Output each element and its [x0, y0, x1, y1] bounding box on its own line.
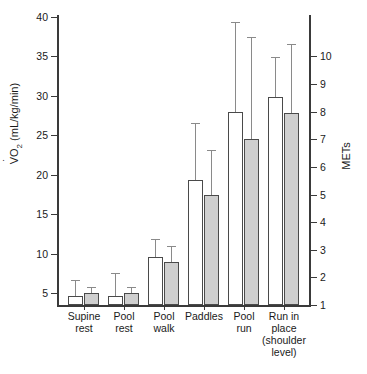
bar-open-bar	[188, 180, 203, 305]
error-bar	[235, 23, 236, 111]
error-bar	[75, 281, 76, 296]
error-bar	[171, 247, 172, 262]
bar-group	[268, 17, 300, 305]
y-axis-left-title-units: (mL/kg/min)	[8, 83, 20, 144]
y-tick-label-right: 2	[320, 272, 326, 283]
error-bar	[211, 151, 212, 195]
bar-shaded-bar	[204, 195, 219, 305]
y-tick-label-right: 8	[320, 107, 326, 118]
bar-shaded-bar	[84, 293, 99, 305]
y-tick-label-left: 15	[36, 209, 48, 220]
y-tick-right	[311, 84, 317, 85]
error-bar-cap	[207, 150, 216, 151]
y-tick-right	[311, 112, 317, 113]
error-bar	[195, 124, 196, 180]
y-axis-right-ticks: 12345678910	[311, 0, 367, 374]
x-axis-line	[57, 305, 311, 307]
y-tick-label-right: 3	[320, 245, 326, 256]
y-tick-label-right: 4	[320, 217, 326, 228]
bar-open-bar	[108, 296, 123, 305]
error-bar-cap	[271, 57, 280, 58]
y-tick-label-right: 1	[320, 300, 326, 311]
error-bar	[251, 38, 252, 138]
y-axis-left-title: VO2 (mL/kg/min)	[8, 64, 23, 184]
bar-open-bar	[268, 97, 283, 305]
error-bar-cap	[87, 287, 96, 288]
y-tick-right	[311, 250, 317, 251]
y-tick-label-left: 25	[36, 130, 48, 141]
y-tick-label-right: 5	[320, 190, 326, 201]
y-tick-right	[311, 167, 317, 168]
y-tick-label-right: 10	[320, 51, 332, 62]
bar-shaded-bar	[124, 293, 139, 305]
error-bar-cap	[151, 239, 160, 240]
y-tick-right	[311, 56, 317, 57]
y-tick-label-left: 35	[36, 51, 48, 62]
y-tick-right	[311, 195, 317, 196]
y-tick-label-left: 5	[42, 288, 48, 299]
error-bar	[131, 288, 132, 293]
error-bar	[91, 288, 92, 293]
y-tick-right	[311, 277, 317, 278]
error-bar-cap	[287, 44, 296, 45]
y-tick-label-right: 7	[320, 134, 326, 145]
error-bar-cap	[167, 246, 176, 247]
bar-group	[228, 17, 260, 305]
error-bar-cap	[127, 287, 136, 288]
x-axis-label: Run inplace(shoulderlevel)	[254, 310, 314, 358]
bar-shaded-bar	[284, 113, 299, 305]
bar-group	[68, 17, 100, 305]
y-tick-label-left: 20	[36, 170, 48, 181]
y-axis-left-ticks: 510152025303540	[0, 0, 57, 374]
y-tick-right	[311, 222, 317, 223]
error-bar	[155, 240, 156, 257]
bar-group	[148, 17, 180, 305]
bar-open-bar	[228, 112, 243, 305]
error-bar-cap	[111, 273, 120, 274]
bar-shaded-bar	[164, 262, 179, 305]
error-bar-cap	[231, 22, 240, 23]
chart-container: 510152025303540 12345678910 VO2 (mL/kg/m…	[0, 0, 367, 374]
error-bar	[291, 45, 292, 113]
plot-area	[57, 17, 310, 305]
y-tick-label-right: 9	[320, 79, 326, 90]
y-axis-right-title: METs	[340, 126, 352, 186]
bar-open-bar	[68, 296, 83, 305]
y-tick-label-right: 6	[320, 162, 326, 173]
bar-open-bar	[148, 257, 163, 305]
error-bar-cap	[247, 37, 256, 38]
y-tick-right	[311, 305, 317, 306]
y-tick-label-left: 30	[36, 91, 48, 102]
y-tick-label-left: 10	[36, 249, 48, 260]
bar-group	[108, 17, 140, 305]
y-tick-right	[311, 139, 317, 140]
error-bar	[275, 58, 276, 97]
error-bar	[115, 274, 116, 295]
error-bar-cap	[191, 123, 200, 124]
bar-shaded-bar	[244, 139, 259, 305]
bar-group	[188, 17, 220, 305]
y-tick-label-left: 40	[36, 12, 48, 23]
error-bar-cap	[71, 280, 80, 281]
